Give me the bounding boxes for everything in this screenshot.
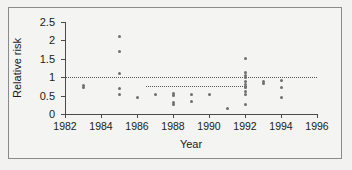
- x-tick: [173, 114, 174, 118]
- data-point: [244, 103, 247, 106]
- data-point: [172, 94, 175, 97]
- x-tick-label: 1986: [125, 121, 148, 132]
- y-tick-label: 0.5: [40, 90, 55, 101]
- data-point: [118, 35, 121, 38]
- x-tick-label: 1992: [233, 121, 256, 132]
- data-point: [208, 93, 211, 96]
- x-tick: [245, 114, 246, 118]
- data-point: [244, 76, 247, 79]
- data-point: [280, 96, 283, 99]
- x-tick-label: 1994: [269, 121, 292, 132]
- x-tick: [317, 114, 318, 118]
- plot-area: 00.511.522.5 198219841986198819901992199…: [65, 22, 317, 114]
- x-tick: [101, 114, 102, 118]
- x-axis-label: Year: [180, 138, 202, 150]
- y-tick-label: 1.5: [40, 53, 55, 64]
- x-tick: [281, 114, 282, 118]
- data-point: [280, 86, 283, 89]
- data-point: [136, 96, 139, 99]
- y-tick: 0.5: [61, 96, 65, 97]
- y-tick-label: 1: [49, 72, 55, 83]
- data-point: [244, 86, 247, 89]
- data-point: [118, 72, 121, 75]
- x-tick-label: 1984: [89, 121, 112, 132]
- y-tick-label: 0: [49, 109, 55, 120]
- data-point: [172, 103, 175, 106]
- data-point: [190, 100, 193, 103]
- x-tick-label: 1990: [197, 121, 220, 132]
- data-point: [190, 93, 193, 96]
- data-point: [244, 57, 247, 60]
- pooled-estimate-line: [146, 86, 247, 87]
- y-axis-line: [65, 22, 66, 114]
- x-axis-line: [65, 114, 317, 115]
- data-point: [118, 50, 121, 53]
- y-tick: 2.5: [61, 22, 65, 23]
- x-tick-label: 1988: [161, 121, 184, 132]
- y-tick: 2: [61, 40, 65, 41]
- null-effect-line: [65, 77, 317, 78]
- x-tick-label: 1982: [53, 121, 76, 132]
- chart-figure: Relative risk Year 00.511.522.5 19821984…: [0, 0, 352, 170]
- x-tick-label: 1996: [305, 121, 328, 132]
- data-point: [118, 87, 121, 90]
- data-point: [244, 93, 247, 96]
- y-tick-label: 2: [49, 35, 55, 46]
- x-tick: [65, 114, 66, 118]
- x-tick: [137, 114, 138, 118]
- data-point: [82, 86, 85, 89]
- x-tick: [209, 114, 210, 118]
- data-point: [154, 93, 157, 96]
- y-axis-label: Relative risk: [11, 38, 23, 98]
- data-point: [262, 82, 265, 85]
- y-tick-label: 2.5: [40, 17, 55, 28]
- data-point: [226, 107, 229, 110]
- data-point: [244, 90, 247, 93]
- data-point: [118, 93, 121, 96]
- data-point: [280, 79, 283, 82]
- y-tick: 1.5: [61, 59, 65, 60]
